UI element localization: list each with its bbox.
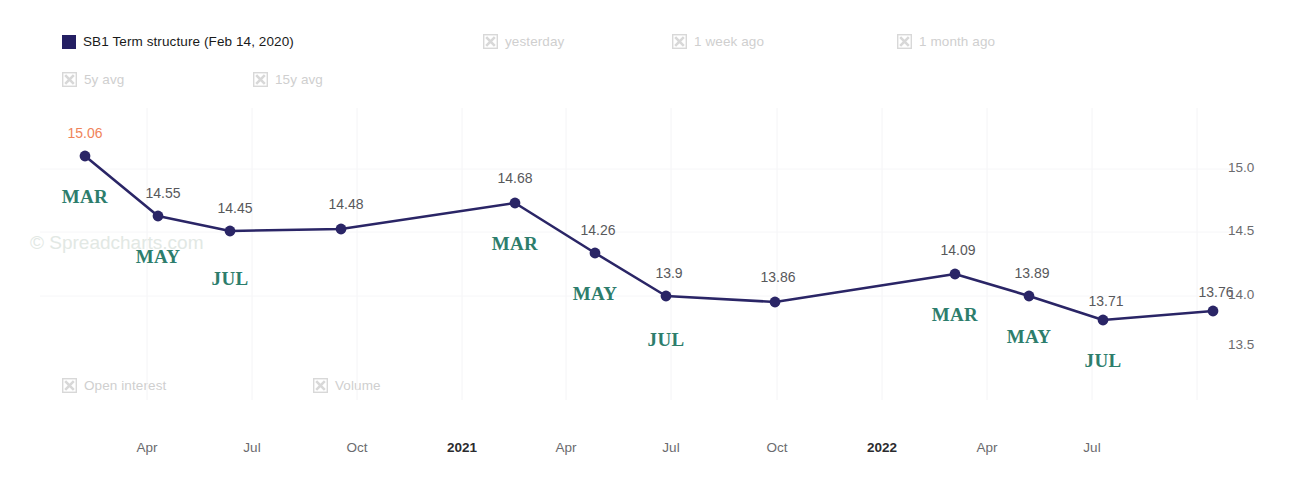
data-point-value-label: 14.09: [940, 242, 975, 258]
x-axis-tick-label: Apr: [976, 440, 997, 455]
legend-item-volume[interactable]: Volume: [313, 378, 381, 393]
x-axis-tick-label: Oct: [346, 440, 367, 455]
data-point-marker[interactable]: [590, 248, 601, 259]
data-point-value-label: 13.9: [655, 265, 682, 281]
legend-item-1-week-ago[interactable]: 1 week ago: [672, 34, 764, 49]
legend-disabled-icon: [313, 378, 328, 393]
x-icon: [62, 378, 77, 393]
legend-item-1-month-ago[interactable]: 1 month ago: [897, 34, 995, 49]
x-axis-tick-label: Jul: [1083, 440, 1100, 455]
x-icon: [62, 72, 77, 87]
data-point-value-label: 13.86: [760, 269, 795, 285]
legend-item-yesterday[interactable]: yesterday: [483, 34, 564, 49]
legend-item-15y-avg[interactable]: 15y avg: [253, 72, 323, 87]
legend-item-open-interest[interactable]: Open interest: [62, 378, 166, 393]
legend-item-label: 1 month ago: [919, 34, 995, 49]
legend-disabled-icon: [672, 34, 687, 49]
y-axis-tick-label: 15.0: [1228, 160, 1254, 175]
contract-month-label: MAY: [136, 246, 181, 268]
series-line: [85, 156, 1213, 320]
y-axis-tick-label: 14.0: [1228, 287, 1254, 302]
data-point-value-label: 14.45: [217, 200, 252, 216]
legend-color-swatch: [62, 35, 76, 49]
x-axis-tick-label: Apr: [136, 440, 157, 455]
contract-month-label: MAY: [573, 283, 618, 305]
legend-item-label: 1 week ago: [694, 34, 764, 49]
legend-disabled-icon: [62, 378, 77, 393]
legend-disabled-icon: [62, 72, 77, 87]
x-icon: [672, 34, 687, 49]
data-point-marker[interactable]: [770, 297, 781, 308]
legend-item-label: 5y avg: [84, 72, 124, 87]
x-axis-tick-label: Oct: [766, 440, 787, 455]
legend-item-label: Volume: [335, 378, 381, 393]
data-point-marker[interactable]: [1024, 291, 1035, 302]
x-axis-tick-label: Jul: [243, 440, 260, 455]
data-point-value-label: 13.89: [1014, 265, 1049, 281]
contract-month-label: MAR: [932, 304, 978, 326]
x-axis-tick-label: Apr: [555, 440, 576, 455]
data-point-value-label: 14.48: [328, 196, 363, 212]
legend-item-label: 15y avg: [275, 72, 323, 87]
vertical-gridlines: [147, 108, 1197, 400]
contract-month-label: MAR: [62, 186, 108, 208]
legend-item-label: yesterday: [505, 34, 564, 49]
legend-item-label: Open interest: [84, 378, 166, 393]
x-axis-tick-label: 2022: [867, 440, 897, 455]
data-point-marker[interactable]: [225, 226, 236, 237]
contract-month-label: JUL: [648, 329, 685, 351]
x-icon: [313, 378, 328, 393]
legend-disabled-icon: [483, 34, 498, 49]
data-point-marker[interactable]: [1098, 315, 1109, 326]
x-axis-tick-label: Jul: [662, 440, 679, 455]
legend-item-sb1-term-structure-feb-14-2020[interactable]: SB1 Term structure (Feb 14, 2020): [62, 34, 294, 49]
contract-month-label: MAR: [492, 233, 538, 255]
data-point-marker[interactable]: [661, 291, 672, 302]
data-point-value-label: 13.71: [1088, 293, 1123, 309]
legend-disabled-icon: [897, 34, 912, 49]
data-point-value-label: 14.68: [497, 170, 532, 186]
series-markers: [80, 151, 1219, 326]
contract-month-label: JUL: [212, 268, 249, 290]
legend-item-5y-avg[interactable]: 5y avg: [62, 72, 124, 87]
legend-disabled-icon: [253, 72, 268, 87]
x-icon: [483, 34, 498, 49]
x-axis-tick-label: 2021: [447, 440, 477, 455]
data-point-marker[interactable]: [1208, 306, 1219, 317]
contract-month-label: JUL: [1085, 350, 1122, 372]
x-icon: [897, 34, 912, 49]
data-point-value-label: 14.55: [145, 185, 180, 201]
y-axis-tick-label: 14.5: [1228, 223, 1254, 238]
legend-item-label: SB1 Term structure (Feb 14, 2020): [83, 34, 294, 49]
data-point-value-label: 15.06: [67, 125, 102, 141]
x-icon: [253, 72, 268, 87]
data-point-marker[interactable]: [80, 151, 91, 162]
data-point-marker[interactable]: [510, 198, 521, 209]
data-point-marker[interactable]: [336, 224, 347, 235]
y-axis-tick-label: 13.5: [1228, 337, 1254, 352]
data-point-marker[interactable]: [153, 211, 164, 222]
contract-month-label: MAY: [1007, 326, 1052, 348]
data-point-value-label: 14.26: [580, 222, 615, 238]
data-point-marker[interactable]: [950, 269, 961, 280]
chart-page: SB1 Term structure (Feb 14, 2020)yesterd…: [0, 0, 1302, 493]
